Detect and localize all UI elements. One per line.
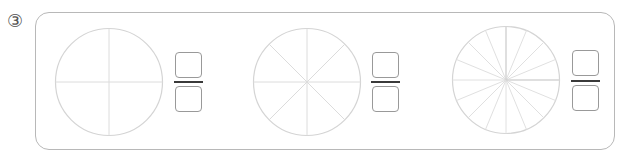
circle-8-divisions xyxy=(252,27,362,137)
fraction-bar-1 xyxy=(174,81,203,83)
numerator-box-2[interactable] xyxy=(372,52,399,78)
circle-16-divisions xyxy=(451,25,561,135)
fraction-bar-2 xyxy=(371,81,400,83)
numerator-box-1[interactable] xyxy=(175,52,202,78)
fraction-bar-3 xyxy=(571,80,600,82)
circle-4-divisions xyxy=(54,27,164,137)
denominator-box-2[interactable] xyxy=(372,86,399,112)
numerator-box-3[interactable] xyxy=(572,50,599,76)
denominator-box-3[interactable] xyxy=(572,85,599,111)
denominator-box-1[interactable] xyxy=(175,86,202,112)
problem-number: ③ xyxy=(4,10,26,32)
